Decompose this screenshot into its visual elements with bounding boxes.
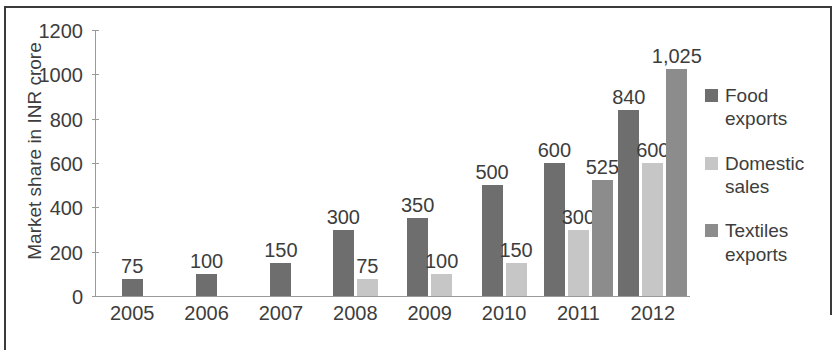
bar[interactable]: 100: [196, 274, 217, 296]
bar[interactable]: 75: [122, 279, 143, 296]
bar[interactable]: 100: [431, 274, 452, 296]
legend-item[interactable]: Food exports: [705, 84, 823, 131]
bar-value-label: 1,025: [652, 46, 702, 66]
legend-item[interactable]: Textiles exports: [705, 219, 823, 266]
bar-group: 500150: [467, 30, 541, 296]
bar-slot: 600: [544, 30, 565, 296]
bar-value-label: 500: [475, 162, 508, 182]
bar-value-label: 75: [121, 256, 143, 276]
x-axis-tick-label: 2012: [616, 302, 690, 325]
x-axis-tick-label: 2007: [244, 302, 318, 325]
bar-slot: 1,025: [666, 30, 687, 296]
bar-chart-figure: Market share in INR crore 12001000800600…: [0, 0, 838, 352]
bar[interactable]: 600: [544, 163, 565, 296]
bar[interactable]: 300: [333, 230, 354, 297]
bar[interactable]: 1,025: [666, 69, 687, 296]
x-axis-tick-label: 2005: [95, 302, 169, 325]
bar-slot: 150: [506, 30, 527, 296]
bar-value-label: 300: [562, 207, 595, 227]
bar[interactable]: 75: [357, 279, 378, 296]
bar-value-label: 600: [636, 140, 669, 160]
bar-slot: 300: [333, 30, 354, 296]
bar-value-label: 150: [264, 240, 297, 260]
bar-slot: 150: [270, 30, 291, 296]
x-axis-tick-label: 2011: [541, 302, 615, 325]
legend-item-label: Domestic sales: [725, 152, 823, 199]
bar-group: 350100: [393, 30, 467, 296]
bar-slot: 100: [431, 30, 452, 296]
legend-item-label: Textiles exports: [725, 219, 823, 266]
x-axis-tick-label: 2009: [393, 302, 467, 325]
bar-value-label: 525: [586, 157, 619, 177]
bar-value-label: 840: [612, 87, 645, 107]
bar-slot: 840: [618, 30, 639, 296]
bar-value-label: 350: [401, 195, 434, 215]
bar-value-label: 150: [499, 240, 532, 260]
x-axis-line: [95, 296, 690, 297]
bar-group: 30075: [318, 30, 392, 296]
x-axis-tick-label: 2010: [467, 302, 541, 325]
y-axis-title: Market share in INR crore: [24, 6, 46, 296]
legend-item[interactable]: Domestic sales: [705, 152, 823, 199]
bar-group: 100: [169, 30, 243, 296]
bar[interactable]: 600: [642, 163, 663, 296]
bar-slot: 75: [122, 30, 143, 296]
x-axis-tick-label: 2006: [169, 302, 243, 325]
bar[interactable]: 525: [592, 180, 613, 296]
figure-border-right: [830, 6, 832, 315]
legend-item-label: Food exports: [725, 84, 823, 131]
bar-value-label: 600: [538, 140, 571, 160]
bar-value-label: 300: [327, 207, 360, 227]
bar-groups: 7510015030075350100500150600300525840600…: [95, 30, 690, 296]
y-axis-tick-label: 800: [50, 108, 83, 131]
figure-border-top: [4, 6, 832, 8]
bar-slot: 600: [642, 30, 663, 296]
chart-legend: Food exportsDomestic salesTextiles expor…: [705, 84, 823, 287]
x-axis-tick-labels: 20052006200720082009201020112012: [95, 302, 690, 325]
legend-swatch-icon: [705, 89, 718, 102]
y-axis-tick-label: 0: [72, 286, 83, 309]
bar[interactable]: 150: [506, 263, 527, 296]
bar-group: 600300525: [541, 30, 615, 296]
bar-slot: 100: [196, 30, 217, 296]
bar-group: 75: [95, 30, 169, 296]
bar-slot: 75: [357, 30, 378, 296]
bar-group: 8406001,025: [616, 30, 690, 296]
y-axis-tick-label: 1000: [39, 64, 84, 87]
bar[interactable]: 840: [618, 110, 639, 296]
bar-group: 150: [244, 30, 318, 296]
bar-value-label: 100: [425, 251, 458, 271]
bar-value-label: 100: [190, 251, 223, 271]
y-axis-tick-label: 400: [50, 197, 83, 220]
bar-slot: 525: [592, 30, 613, 296]
y-axis-tick-label: 600: [50, 153, 83, 176]
y-axis-tick: 0: [92, 296, 99, 297]
figure-border-left: [4, 6, 6, 350]
bar[interactable]: 300: [568, 230, 589, 297]
bar[interactable]: 150: [270, 263, 291, 296]
legend-swatch-icon: [705, 224, 718, 237]
plot-area: 120010008006004002000 751001503007535010…: [95, 30, 690, 296]
y-axis-tick-label: 1200: [39, 20, 84, 43]
y-axis-tick-label: 200: [50, 241, 83, 264]
x-axis-tick-label: 2008: [318, 302, 392, 325]
bar-value-label: 75: [356, 256, 378, 276]
legend-swatch-icon: [705, 157, 718, 170]
